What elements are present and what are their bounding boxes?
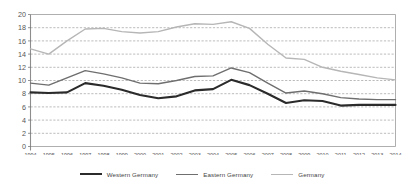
x-axis-tick-label: 2000 (134, 152, 146, 155)
x-axis-tick-label: 2011 (335, 152, 347, 155)
x-axis-tick-label: 1994 (24, 152, 36, 155)
x-axis-tick-label: 2004 (207, 152, 219, 155)
x-axis-tick-label: 2007 (262, 152, 274, 155)
x-axis-tick-label: 1999 (116, 152, 128, 155)
x-axis-tick-label: 2006 (243, 152, 255, 155)
x-axis-tick-label: 1996 (61, 152, 73, 155)
y-axis-tick-label: 14 (18, 50, 26, 59)
legend-label: Germany (298, 171, 324, 178)
chart-canvas: 02468101214161820 1994199519961997199819… (0, 0, 404, 155)
y-axis-tick-label: 20 (18, 10, 26, 19)
chart-legend: Western GermanyEastern GermanyGermany (0, 166, 404, 182)
y-axis-tick-label: 0 (22, 142, 26, 151)
x-axis-tick-label: 2008 (280, 152, 292, 155)
data-series-lines (31, 22, 396, 106)
series-line-western-germany (31, 80, 396, 106)
x-axis-tick-label: 2013 (371, 152, 383, 155)
grid-lines (31, 28, 396, 134)
y-axis-tick-label: 8 (22, 89, 26, 98)
x-axis-tick-label: 2002 (170, 152, 182, 155)
x-axis-tick-label: 2003 (189, 152, 201, 155)
y-axis-tick-label: 6 (22, 103, 26, 112)
plot-area: 02468101214161820 1994199519961997199819… (0, 0, 404, 155)
x-axis-tick-label: 2014 (389, 152, 401, 155)
legend-line-swatch (176, 174, 198, 175)
x-axis-tick-label: 2012 (353, 152, 365, 155)
x-axis-tick-label: 1998 (97, 152, 109, 155)
x-axis-tick-label: 1997 (79, 152, 91, 155)
x-axis-tick-label: 2009 (298, 152, 310, 155)
y-axis-tick-label: 2 (22, 129, 26, 138)
x-axis-tick-label: 1995 (43, 152, 55, 155)
legend-item[interactable]: Western Germany (80, 171, 159, 178)
x-axis-tick-label: 2005 (225, 152, 237, 155)
legend-label: Eastern Germany (203, 171, 253, 178)
legend-item[interactable]: Eastern Germany (176, 171, 253, 178)
legend-line-swatch (80, 173, 102, 175)
y-axis-tick-label: 12 (18, 63, 26, 72)
x-axis-tick-label: 2001 (152, 152, 164, 155)
x-axis-tick-label: 2010 (316, 152, 328, 155)
y-axis-tick-label: 16 (18, 37, 26, 46)
x-axis-tick-labels: 1994199519961997199819992000200120022003… (24, 152, 401, 155)
y-axis-tick-label: 4 (22, 116, 26, 125)
line-chart: 02468101214161820 1994199519961997199819… (0, 0, 404, 191)
legend-item[interactable]: Germany (271, 171, 324, 178)
legend-label: Western Germany (107, 171, 159, 178)
y-axis-tick-labels: 02468101214161820 (18, 10, 26, 151)
y-axis-tick-label: 10 (18, 76, 26, 85)
y-axis-tick-label: 18 (18, 23, 26, 32)
legend-line-swatch (271, 174, 293, 175)
